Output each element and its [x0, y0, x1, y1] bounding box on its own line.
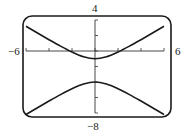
x-max-label: 6: [175, 46, 181, 57]
graph-display: [0, 0, 196, 137]
axes: [26, 20, 164, 113]
x-min-label: −6: [8, 46, 20, 57]
y-max-label: 4: [92, 3, 98, 14]
y-min-label: −8: [87, 121, 99, 132]
